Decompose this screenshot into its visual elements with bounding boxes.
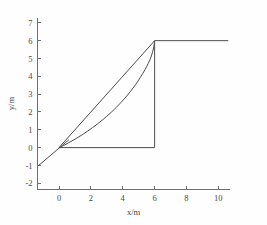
y-tick-label: 3: [28, 89, 32, 99]
y-tick-label: 6: [28, 36, 32, 46]
y-tick-label: 0: [28, 143, 32, 153]
y-tick-label: 5: [28, 54, 32, 64]
series-incline-ray: [38, 140, 69, 166]
x-tick-label: 2: [89, 193, 93, 203]
tick-labels-group: 0246810-2-101234567: [25, 18, 222, 203]
y-tick-label: 1: [28, 125, 32, 135]
data-series-group: [38, 41, 228, 166]
x-tick-label: 0: [57, 193, 61, 203]
x-axis-title: x/m: [127, 207, 141, 217]
y-axis-title: y/m: [6, 97, 16, 111]
y-tick-label: 7: [28, 18, 32, 28]
x-tick-label: 4: [121, 193, 126, 203]
x-tick-label: 10: [214, 193, 223, 203]
y-tick-label: 2: [28, 107, 32, 117]
x-tick-label: 6: [152, 193, 156, 203]
series-chord: [59, 41, 155, 148]
axes-group: [38, 18, 230, 190]
y-tick-label: -2: [25, 178, 32, 188]
x-tick-label: 8: [184, 193, 188, 203]
chart-figure: 0246810-2-101234567 x/m y/m: [0, 0, 267, 225]
y-tick-label: 4: [28, 71, 33, 81]
y-tick-label: -1: [25, 161, 32, 171]
plot-canvas: 0246810-2-101234567 x/m y/m: [0, 0, 267, 225]
ticks-group: [38, 23, 219, 190]
